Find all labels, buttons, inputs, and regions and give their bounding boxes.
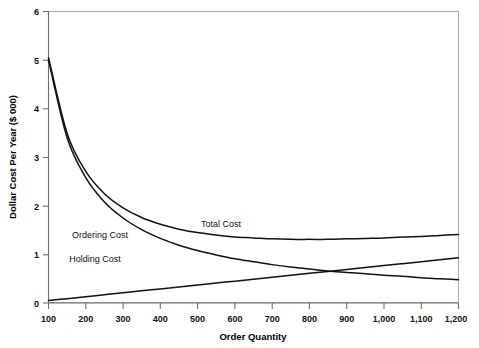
y-tick-label: 1 — [34, 250, 39, 260]
series-label-total-cost: Total Cost — [201, 219, 242, 229]
x-tick-label: 600 — [227, 314, 242, 324]
y-tick-label: 5 — [34, 56, 39, 66]
x-tick-label: 300 — [116, 314, 131, 324]
x-tick-label: 200 — [78, 314, 93, 324]
y-tick-label: 0 — [34, 299, 39, 309]
x-tick-label: 1,200 — [445, 314, 468, 324]
series-line-ordering-cost — [49, 60, 459, 280]
x-tick-label: 400 — [153, 314, 168, 324]
chart-container: 6 5 4 3 2 1 0 Dollar Cost Per Year ($ 00… — [0, 0, 479, 348]
x-axis-title: Order Quantity — [219, 331, 287, 342]
x-tick-label: 800 — [302, 314, 317, 324]
x-tick-label: 900 — [339, 314, 354, 324]
cost-vs-order-quantity-chart: 6 5 4 3 2 1 0 Dollar Cost Per Year ($ 00… — [0, 0, 479, 348]
y-axis-title: Dollar Cost Per Year ($ 000) — [7, 95, 18, 219]
series-label-holding-cost: Holding Cost — [69, 254, 121, 264]
x-tick-label: 700 — [265, 314, 280, 324]
x-tick-label: 500 — [190, 314, 205, 324]
y-tick-label: 4 — [34, 104, 39, 114]
series-layer — [49, 58, 459, 301]
x-tick-label: 1,000 — [373, 314, 396, 324]
x-axis-ticks — [49, 303, 459, 309]
x-tick-label: 100 — [41, 314, 56, 324]
y-tick-label: 3 — [34, 153, 39, 163]
x-axis-tick-labels: 100 200 300 400 500 600 700 800 900 1,00… — [41, 314, 467, 324]
series-line-total-cost — [49, 58, 459, 240]
x-tick-label: 1,100 — [410, 314, 433, 324]
series-line-holding-cost — [49, 258, 459, 301]
y-tick-label: 6 — [34, 7, 39, 17]
y-tick-label: 2 — [34, 202, 39, 212]
y-axis-tick-labels: 6 5 4 3 2 1 0 — [34, 7, 39, 309]
y-axis-ticks — [43, 12, 49, 304]
series-label-ordering-cost: Ordering Cost — [72, 230, 129, 240]
